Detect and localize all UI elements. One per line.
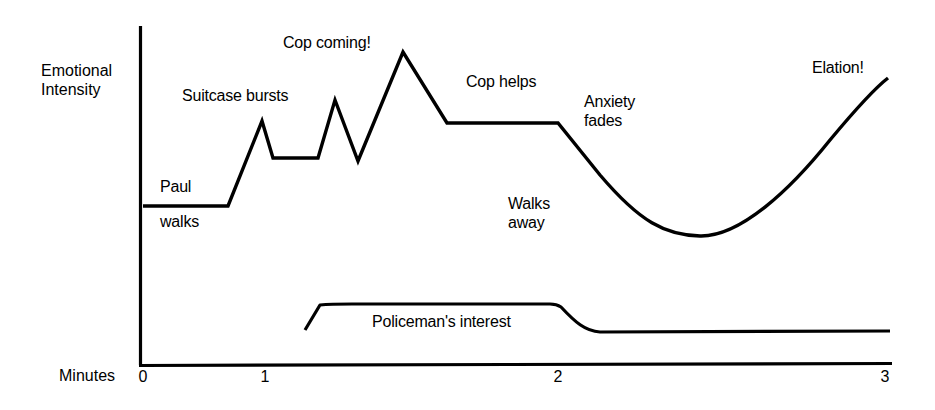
annotation-walks-away-line2: away — [508, 214, 545, 231]
annotation-policemans-interest: Policeman's interest — [372, 312, 511, 331]
emotional-intensity-chart: EmotionalIntensity Minutes 0 1 2 3 Paulw… — [0, 0, 935, 410]
chart-plot-area — [0, 0, 935, 410]
annotation-paul-walks: Paulwalks — [160, 177, 199, 231]
annotation-walks-away: Walksaway — [508, 194, 550, 232]
annotation-anxiety-fades-line1: Anxiety — [584, 93, 635, 110]
x-axis-line — [139, 364, 892, 366]
annotation-paul-walks-line2: walks — [160, 212, 199, 231]
annotation-walks-away-line1: Walks — [508, 195, 550, 212]
annotation-anxiety-fades-line2: fades — [584, 112, 622, 129]
y-axis-title-line1: Emotional — [41, 62, 112, 79]
annotation-suitcase-bursts: Suitcase bursts — [182, 86, 288, 105]
x-axis-title: Minutes — [59, 366, 115, 385]
y-axis-title-line2: Intensity — [41, 81, 101, 98]
x-tick-label-0: 0 — [131, 368, 155, 386]
annotation-cop-coming: Cop coming! — [283, 33, 371, 52]
x-tick-label-1: 1 — [253, 368, 277, 386]
annotation-elation: Elation! — [812, 58, 864, 77]
x-tick-label-2: 2 — [546, 368, 570, 386]
x-tick-label-3: 3 — [873, 368, 897, 386]
annotation-anxiety-fades: Anxietyfades — [584, 92, 635, 130]
annotation-paul-walks-line1: Paul — [160, 178, 191, 195]
annotation-cop-helps: Cop helps — [466, 72, 536, 91]
y-axis-title: EmotionalIntensity — [41, 61, 112, 99]
